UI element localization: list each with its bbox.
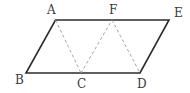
label-A: A	[46, 3, 56, 17]
label-B: B	[15, 73, 24, 87]
label-F: F	[109, 3, 117, 17]
geometry-diagram: A F E B C D	[0, 0, 190, 93]
label-E: E	[174, 6, 183, 20]
label-C: C	[77, 77, 86, 91]
segment-FD	[112, 20, 140, 73]
segment-CF	[81, 20, 112, 73]
segment-AC	[56, 20, 82, 73]
parallelogram-ABDE	[26, 20, 169, 73]
label-D: D	[137, 77, 147, 91]
